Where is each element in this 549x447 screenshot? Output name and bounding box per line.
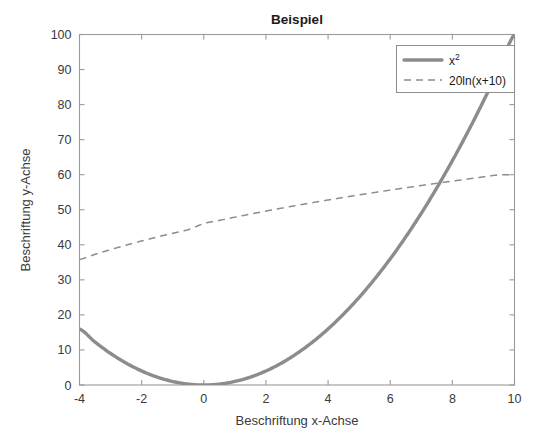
- chart-title: Beispiel: [271, 12, 323, 27]
- y-tick-label: 30: [58, 273, 72, 287]
- x-tick-label: 10: [508, 392, 522, 406]
- y-tick-label: 70: [58, 133, 72, 147]
- y-tick-label: 0: [65, 379, 72, 393]
- chart-legend[interactable]: x2 20ln(x+10): [397, 46, 515, 93]
- y-tick-label: 10: [58, 343, 72, 357]
- x-tick-label: -2: [136, 392, 147, 406]
- line-chart: Beispiel -4-2024681001020304050607080901…: [0, 0, 549, 447]
- x-tick-label: 4: [325, 392, 332, 406]
- y-tick-label: 80: [58, 98, 72, 112]
- x-axis-label: Beschriftung x-Achse: [236, 413, 359, 428]
- y-tick-label: 20: [58, 308, 72, 322]
- y-tick-label: 40: [58, 238, 72, 252]
- y-tick-label: 60: [58, 168, 72, 182]
- x-tick-label: 8: [449, 392, 456, 406]
- x-tick-label: 0: [200, 392, 207, 406]
- x-tick-label: -4: [74, 392, 85, 406]
- y-tick-label: 100: [51, 28, 72, 42]
- chart-figure: Beispiel -4-2024681001020304050607080901…: [0, 0, 549, 447]
- legend-label-superscript: 2: [455, 52, 460, 62]
- y-tick-label: 50: [58, 203, 72, 217]
- legend-label-20ln: 20ln(x+10): [449, 74, 506, 88]
- y-tick-label: 90: [58, 63, 72, 77]
- x-tick-label: 2: [262, 392, 269, 406]
- y-axis-label: Beschriftung y-Achse: [18, 149, 33, 272]
- series-line-20ln-x-plus-10: [80, 175, 515, 260]
- x-tick-label: 6: [387, 392, 394, 406]
